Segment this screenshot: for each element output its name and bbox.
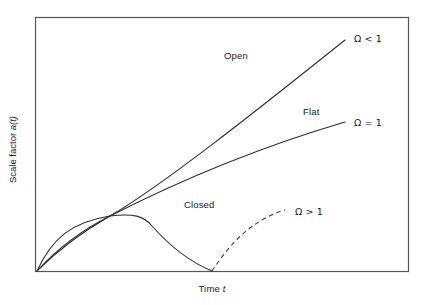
plot-area <box>0 0 424 305</box>
y-axis-label-wrap: Scale factor a(t) <box>4 100 20 200</box>
y-axis-label-text: Scale factor <box>7 130 18 183</box>
x-axis-label: Time t <box>0 283 424 294</box>
y-axis-label-variable: a(t) <box>7 116 18 130</box>
y-axis-label: Scale factor a(t) <box>7 100 18 200</box>
annotation-flat: Flat <box>303 106 319 117</box>
annotation-closed-omega: Ω > 1 <box>295 206 323 217</box>
annotation-open: Open <box>224 50 248 61</box>
cosmology-scale-factor-chart: Scale factor a(t) Time t Open Ω < 1 Flat… <box>0 0 424 305</box>
plot-frame <box>36 18 409 272</box>
x-axis-label-variable: t <box>223 283 226 294</box>
annotation-flat-omega: Ω = 1 <box>354 117 382 128</box>
annotation-closed: Closed <box>184 199 214 210</box>
annotation-open-omega: Ω < 1 <box>354 33 382 44</box>
x-axis-label-text: Time <box>199 283 223 294</box>
